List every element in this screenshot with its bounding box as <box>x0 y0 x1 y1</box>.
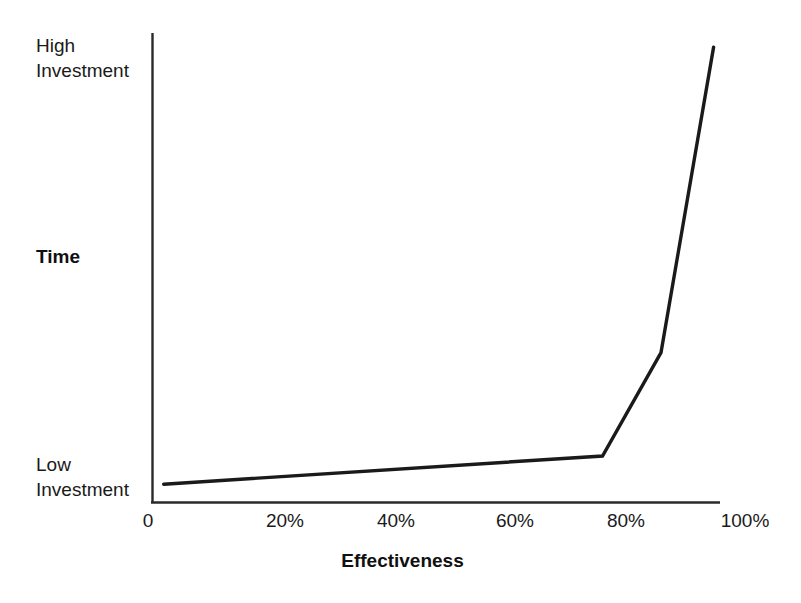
y-axis-low-label-line2: Investment <box>36 479 129 500</box>
y-axis-high-label-line2: Investment <box>36 60 129 81</box>
x-axis-title: Effectiveness <box>0 550 801 572</box>
data-series-line <box>164 47 714 484</box>
y-axis-high-label: HighInvestment <box>36 33 129 83</box>
chart-plot-area <box>0 0 801 603</box>
y-axis-low-label: LowInvestment <box>36 452 129 502</box>
chart-figure: HighInvestment LowInvestment Time 020%40… <box>0 0 801 603</box>
y-axis-high-label-line1: High <box>36 35 75 56</box>
y-axis-title: Time <box>36 246 80 268</box>
y-axis-low-label-line1: Low <box>36 454 71 475</box>
x-axis-title-text: Effectiveness <box>341 550 464 572</box>
